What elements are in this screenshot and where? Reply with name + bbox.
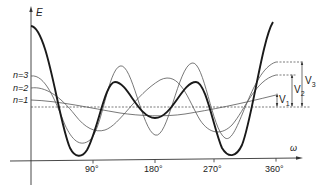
bracket-label-v1: V1 bbox=[279, 95, 290, 107]
tick-label-360: 360° bbox=[265, 165, 284, 174]
bracket-label-v2: V2 bbox=[294, 85, 305, 97]
bracket-label-v3: V3 bbox=[305, 76, 316, 88]
energy-profile-diagram: E ω 90° 180° 270° 360° n=3 n=2 n=1 V3 V2… bbox=[0, 0, 324, 186]
arrow-down-icon bbox=[301, 103, 303, 107]
tick-label-180: 180° bbox=[144, 165, 163, 174]
curve-thick bbox=[31, 22, 273, 156]
level-label-n2: n=2 bbox=[13, 84, 28, 93]
x-axis-label: ω bbox=[290, 144, 297, 153]
diagram-canvas bbox=[0, 0, 324, 186]
v2-letter: V bbox=[294, 84, 301, 95]
v2-subscript: 2 bbox=[301, 90, 305, 97]
arrow-down-icon bbox=[276, 103, 278, 107]
arrow-down-icon bbox=[291, 103, 293, 107]
v3-subscript: 3 bbox=[312, 81, 316, 88]
arrow-up-icon bbox=[276, 93, 278, 97]
arrow-up-icon bbox=[301, 61, 303, 65]
y-axis-label: E bbox=[36, 8, 43, 18]
x-axis bbox=[10, 158, 298, 161]
arrow-up-icon bbox=[291, 74, 293, 78]
v1-letter: V bbox=[279, 94, 286, 105]
curve-n1 bbox=[31, 95, 276, 116]
level-label-n3: n=3 bbox=[13, 71, 28, 80]
level-label-n1: n=1 bbox=[13, 96, 28, 105]
x-axis-arrow-icon bbox=[296, 156, 303, 160]
v1-subscript: 1 bbox=[286, 100, 290, 107]
curve-n3 bbox=[31, 62, 276, 143]
axes bbox=[10, 6, 303, 185]
tick-label-270: 270° bbox=[203, 165, 222, 174]
tick-label-90: 90° bbox=[85, 165, 99, 174]
y-axis-arrow-icon bbox=[29, 6, 32, 12]
v3-letter: V bbox=[305, 75, 312, 86]
